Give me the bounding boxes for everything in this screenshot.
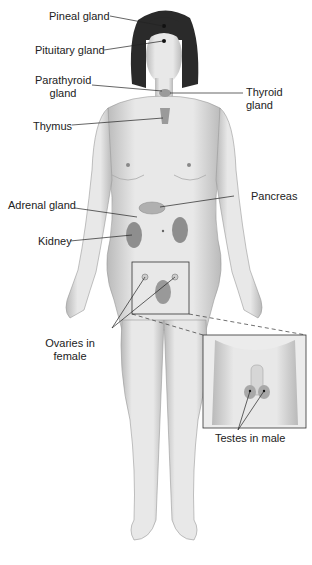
label-ovaries-line1: Ovaries in	[45, 337, 95, 349]
label-pineal-gland: Pineal gland	[49, 10, 110, 23]
label-thyroid-gland: Thyroid gland	[246, 86, 283, 112]
label-parathyroid-gland: Parathyroid gland	[35, 74, 91, 100]
kidney-right	[172, 217, 188, 243]
left-leg	[121, 320, 164, 540]
left-arm	[66, 108, 112, 318]
label-ovaries-in-female: Ovaries in female	[40, 337, 100, 363]
pancreas	[139, 202, 165, 214]
right-arm	[216, 108, 262, 318]
label-ovaries-line2: female	[53, 350, 86, 362]
label-pituitary-gland: Pituitary gland	[35, 44, 105, 57]
label-parathyroid-line1: Parathyroid	[35, 74, 91, 86]
label-testes-in-male: Testes in male	[215, 432, 285, 445]
label-parathyroid-line2: gland	[50, 87, 77, 99]
label-thymus: Thymus	[33, 120, 72, 133]
label-thyroid-line1: Thyroid	[246, 86, 283, 98]
label-thyroid-line2: gland	[246, 99, 273, 111]
label-kidney: Kidney	[38, 235, 72, 248]
right-leg	[164, 320, 207, 540]
label-pancreas: Pancreas	[251, 190, 297, 203]
label-adrenal-gland: Adrenal gland	[8, 199, 76, 212]
thyroid	[159, 89, 171, 97]
